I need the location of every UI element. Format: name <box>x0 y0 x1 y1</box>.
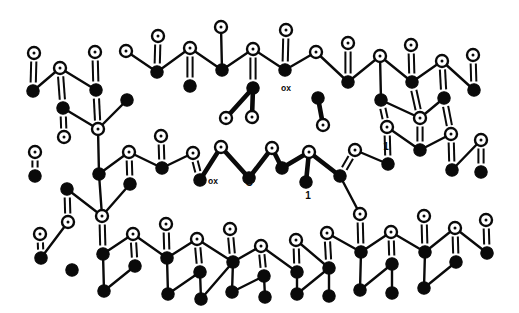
open-atom-center-dot <box>354 149 357 152</box>
label-ox-left: ox <box>208 176 218 186</box>
filled-atom <box>195 293 207 305</box>
filled-atom <box>247 82 259 94</box>
open-atom-center-dot <box>285 29 288 32</box>
filled-atom <box>227 256 239 268</box>
open-atom-center-dot <box>34 151 37 154</box>
filled-atom <box>300 176 312 188</box>
open-atom-center-dot <box>67 221 70 224</box>
filled-atom <box>414 144 426 156</box>
open-atom-center-dot <box>63 136 66 139</box>
open-atom-center-dot <box>192 152 195 155</box>
filled-atom <box>386 287 398 299</box>
open-atom-center-dot <box>132 233 135 236</box>
open-atom-center-dot <box>220 146 223 149</box>
filled-atom <box>35 252 47 264</box>
open-atom-center-dot <box>379 55 382 58</box>
filled-atom <box>161 252 173 264</box>
filled-atom <box>418 282 430 294</box>
filled-atom <box>121 94 133 106</box>
open-atom-center-dot <box>128 151 131 154</box>
open-atom-center-dot <box>295 239 298 242</box>
open-atom-center-dot <box>157 35 160 38</box>
filled-atom <box>323 262 335 274</box>
open-atom-center-dot <box>347 42 350 45</box>
open-atom-center-dot <box>39 233 42 236</box>
filled-atom <box>312 92 324 104</box>
open-atom-center-dot <box>196 238 199 241</box>
label-c-center: C <box>245 177 252 188</box>
filled-atom <box>468 84 480 96</box>
filled-atom <box>354 284 366 296</box>
filled-atom <box>259 291 271 303</box>
open-atom-center-dot <box>326 232 329 235</box>
filled-atom <box>216 64 228 76</box>
open-atom-center-dot <box>390 231 393 234</box>
filled-atom <box>450 256 462 268</box>
filled-atom <box>29 170 41 182</box>
open-atom-center-dot <box>410 44 413 47</box>
open-atom-center-dot <box>485 219 488 222</box>
filled-atom <box>98 285 110 297</box>
filled-atom <box>93 168 105 180</box>
filled-atom <box>291 288 303 300</box>
filled-atom <box>27 85 39 97</box>
open-atom-center-dot <box>322 124 325 127</box>
open-atom-center-dot <box>189 47 192 50</box>
filled-atom <box>162 288 174 300</box>
open-atom-center-dot <box>94 51 97 54</box>
filled-atom <box>342 76 354 88</box>
open-atom-center-dot <box>441 60 444 63</box>
filled-atom <box>151 66 163 78</box>
filled-atom <box>184 80 196 92</box>
open-atom-center-dot <box>229 228 232 231</box>
filled-atom <box>446 164 458 176</box>
filled-atom <box>129 260 141 272</box>
open-atom-center-dot <box>359 213 362 216</box>
filled-atom <box>194 174 206 186</box>
open-atom-center-dot <box>252 48 255 51</box>
open-atom-center-dot <box>315 51 318 54</box>
filled-atom <box>258 270 270 282</box>
filled-atom <box>386 258 398 270</box>
open-atom-center-dot <box>260 245 263 248</box>
lattice-figure: oxoxC11 <box>0 0 519 313</box>
open-atom-center-dot <box>33 52 36 55</box>
filled-atom <box>481 247 493 259</box>
label-one-lower: 1 <box>305 190 311 201</box>
open-atom-center-dot <box>308 151 311 154</box>
filled-atom <box>276 162 288 174</box>
filled-atom <box>419 246 431 258</box>
open-atom-center-dot <box>125 50 128 53</box>
open-atom-center-dot <box>160 135 163 138</box>
filled-atom <box>124 178 136 190</box>
annotation-layer: oxoxC11 <box>208 83 389 201</box>
filled-atom <box>475 166 487 178</box>
lattice-canvas: oxoxC11 <box>0 0 519 313</box>
label-one-right: 1 <box>383 141 389 152</box>
filled-atom <box>90 84 102 96</box>
open-atom-center-dot <box>59 67 62 70</box>
open-atom-center-dot <box>271 147 274 150</box>
filled-atom <box>66 264 78 276</box>
filled-atom <box>438 92 450 104</box>
filled-atom <box>226 286 238 298</box>
open-atom-center-dot <box>225 117 228 120</box>
filled-atom <box>382 158 394 170</box>
filled-atom <box>156 162 168 174</box>
open-atom-center-dot <box>251 116 254 119</box>
open-atom-center-dot <box>419 117 422 120</box>
open-atom-center-dot <box>165 223 168 226</box>
filled-atom <box>61 183 73 195</box>
open-atom-center-dot <box>101 215 104 218</box>
open-atom-center-dot <box>480 139 483 142</box>
filled-atom <box>291 266 303 278</box>
filled-atom <box>334 170 346 182</box>
filled-atom <box>194 266 206 278</box>
filled-atom <box>355 246 367 258</box>
open-atom-center-dot <box>450 133 453 136</box>
open-atom-center-dot <box>423 215 426 218</box>
open-atom-center-dot <box>386 126 389 129</box>
filled-atom <box>406 76 418 88</box>
filled-atom <box>57 102 69 114</box>
open-atom-center-dot <box>220 26 223 29</box>
